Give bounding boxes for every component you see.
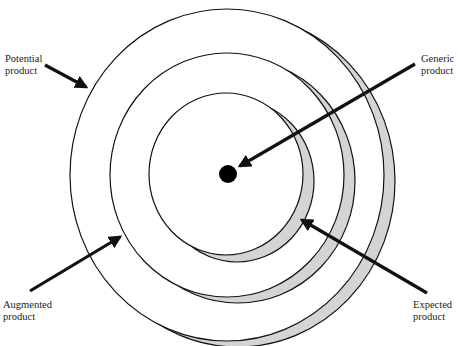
potential-label-line2: product (5, 65, 42, 77)
generic-product-label: Generic product (421, 53, 454, 77)
expected-label-line2: product (413, 311, 452, 323)
expected-product-label: Expected product (413, 299, 452, 323)
potential-label-line1: Potential (5, 53, 42, 65)
augmented-product-label: Augmented product (3, 299, 52, 323)
generic-product-core (219, 165, 237, 183)
augmented-label-line1: Augmented (3, 299, 52, 311)
generic-label-line1: Generic (421, 53, 454, 65)
expected-label-line1: Expected (413, 299, 452, 311)
potential-arrow (45, 65, 86, 87)
product-levels-diagram (0, 0, 458, 346)
augmented-label-line2: product (3, 311, 52, 323)
generic-label-line2: product (421, 65, 454, 77)
potential-product-label: Potential product (5, 53, 42, 77)
